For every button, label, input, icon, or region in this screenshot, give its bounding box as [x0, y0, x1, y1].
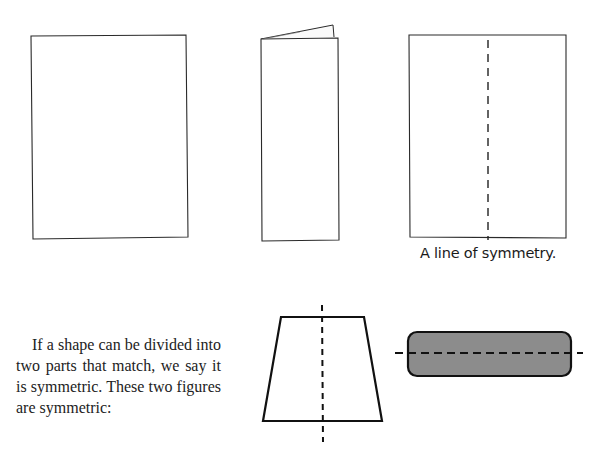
figure-caption: A line of symmetry. — [409, 245, 567, 261]
body-paragraph: If a shape can be divided into two parts… — [16, 334, 221, 418]
trapezoid-figure — [263, 305, 382, 442]
sheet-of-paper — [31, 35, 188, 239]
folded-paper — [261, 25, 339, 241]
unfolded-paper-with-fold-line — [409, 35, 566, 240]
rounded-rectangle-figure — [395, 332, 583, 376]
paragraph-text: If a shape can be divided into two parts… — [16, 336, 221, 416]
